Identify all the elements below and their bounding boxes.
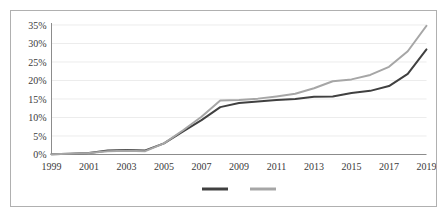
y-tick-label: 25% <box>28 57 46 68</box>
x-tick-label: 2009 <box>229 161 249 172</box>
y-axis-tick-labels: 0%5%10%15%20%25%30%35% <box>28 20 46 161</box>
x-axis-tick-labels: 1999200120032005200720092011201320152017… <box>42 161 437 172</box>
x-tick-label: 2011 <box>267 161 287 172</box>
line-chart: 0%5%10%15%20%25%30%35% 19992001200320052… <box>11 11 436 206</box>
x-tick-label: 2015 <box>342 161 362 172</box>
x-tick-label: 2005 <box>154 161 174 172</box>
chart-figure: 0%5%10%15%20%25%30%35% 19992001200320052… <box>10 10 437 207</box>
data-series-group <box>52 26 427 154</box>
y-tick-label: 0% <box>33 149 46 160</box>
y-tick-label: 30% <box>28 38 46 49</box>
y-tick-label: 20% <box>28 75 46 86</box>
x-tick-label: 2013 <box>304 161 324 172</box>
x-tick-label: 2017 <box>379 161 399 172</box>
y-tick-label: 5% <box>33 131 46 142</box>
x-tick-label: 1999 <box>42 161 62 172</box>
x-tick-label: 2001 <box>79 161 99 172</box>
x-tick-label: 2003 <box>117 161 137 172</box>
series-line-series-dark <box>52 49 427 154</box>
x-tick-label: 2019 <box>417 161 437 172</box>
gridlines-group <box>52 25 427 136</box>
x-tick-label: 2007 <box>192 161 212 172</box>
y-tick-label: 15% <box>28 94 46 105</box>
chart-plot-area: 0%5%10%15%20%25%30%35% 19992001200320052… <box>11 11 436 206</box>
y-tick-label: 35% <box>28 20 46 31</box>
y-tick-label: 10% <box>28 112 46 123</box>
